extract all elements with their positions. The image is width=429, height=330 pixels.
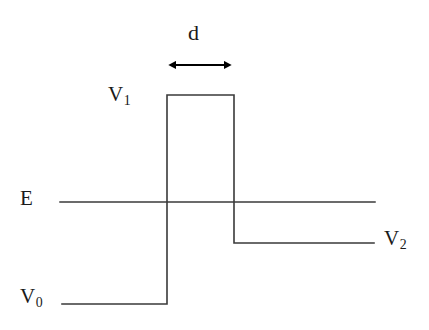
label-v2-base: V <box>384 226 399 250</box>
left-level-label-v0: V0 <box>20 286 43 307</box>
label-v2-subscript: 2 <box>399 237 406 252</box>
label-v0-base: V <box>20 284 35 308</box>
right-level-label-v2: V2 <box>384 228 407 249</box>
label-v0-subscript: 0 <box>35 295 42 310</box>
energy-label-e: E <box>20 188 33 209</box>
label-v1-base: V <box>108 82 123 106</box>
potential-diagram-svg <box>0 0 429 330</box>
label-v1-subscript: 1 <box>123 93 130 108</box>
barrier-height-label-v1: V1 <box>108 84 131 105</box>
potential-barrier-diagram: d V1 E V2 V0 <box>0 0 429 330</box>
potential-profile-line <box>62 95 374 304</box>
barrier-width-label: d <box>188 22 199 44</box>
